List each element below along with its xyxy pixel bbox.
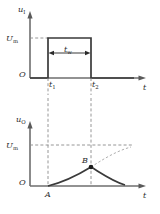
y-tick-label-um-input: Um <box>6 33 18 44</box>
x-axis-label-output: t <box>143 191 147 200</box>
pulse-width-arrow-right <box>85 51 91 55</box>
origin-label-output: O <box>19 177 26 187</box>
y-axis-arrow-input <box>27 11 32 19</box>
point-label-a: A <box>44 190 51 199</box>
y-axis-label-input: uI <box>18 4 25 15</box>
panel-output-response: uO Um O A B t <box>6 98 147 200</box>
x-axis-arrow-input <box>139 75 147 80</box>
pulse-width-label: tw <box>64 44 72 55</box>
panel-input-pulse: uI Um O t1 t2 tw t <box>6 4 147 95</box>
y-tick-label-um-output: Um <box>6 140 18 151</box>
pulse-width-arrow-left <box>49 51 55 55</box>
x-axis-label-input: t <box>143 83 147 92</box>
origin-label-input: O <box>19 69 26 79</box>
point-label-b: B <box>81 156 88 165</box>
x-axis-arrow-output <box>139 183 147 188</box>
x-tick-label-t2: t2 <box>92 79 99 90</box>
x-tick-label-t1: t1 <box>49 79 56 90</box>
waveform-figure: uI Um O t1 t2 tw t <box>0 0 160 214</box>
input-pulse-trace <box>30 38 134 78</box>
y-axis-label-output: uO <box>16 114 26 125</box>
output-response-trace <box>48 167 125 186</box>
peak-point-marker-b <box>89 165 94 170</box>
waveform-svg: uI Um O t1 t2 tw t <box>0 0 160 214</box>
asymptote-extension-trace <box>91 147 131 167</box>
y-axis-arrow-output <box>27 121 32 129</box>
